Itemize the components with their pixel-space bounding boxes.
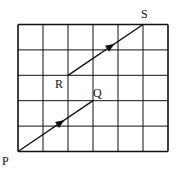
arrowhead-icon xyxy=(105,44,114,52)
label-q: Q xyxy=(93,86,102,100)
label-s: S xyxy=(141,7,148,21)
vector-grid-diagram: P Q R S xyxy=(0,0,179,170)
arrowhead-icon xyxy=(55,120,64,128)
label-r: R xyxy=(55,77,63,91)
vectors xyxy=(18,25,143,152)
label-p: P xyxy=(2,154,9,168)
